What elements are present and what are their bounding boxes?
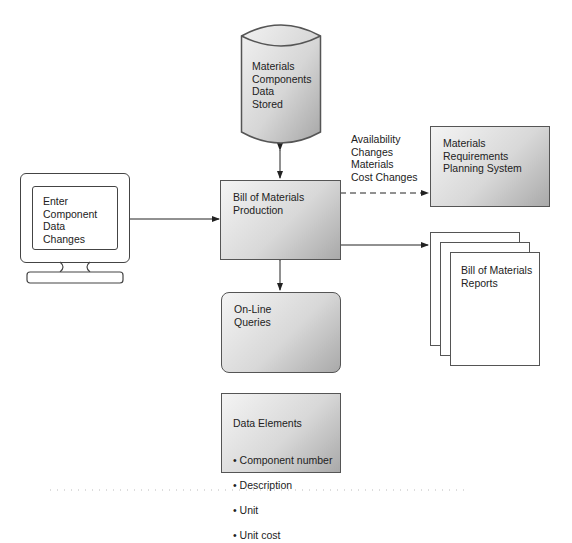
data-element-item: Description <box>233 479 332 492</box>
database-cylinder: Materials Components Data Stored <box>240 20 322 148</box>
data-element-item: Component number <box>233 454 332 467</box>
reports-document-stack: Bill of Materials Reports <box>430 232 540 347</box>
mrp-system-label: Materials Requirements Planning System <box>443 137 522 175</box>
terminal-label: Enter Component Data Changes <box>43 195 97 245</box>
report-page-front: Bill of Materials Reports <box>450 252 540 366</box>
bom-production-label: Bill of Materials Production <box>233 191 304 216</box>
monitor-stand-icon <box>20 261 130 285</box>
data-elements-box: Data Elements Component number Descripti… <box>221 393 341 473</box>
online-queries-box: On-Line Queries <box>221 292 341 373</box>
reports-label: Bill of Materials Reports <box>461 264 532 289</box>
data-element-item: Unit cost <box>233 529 332 542</box>
terminal-monitor: Enter Component Data Changes <box>20 173 130 285</box>
availability-changes-label: Availability Changes Materials Cost Chan… <box>351 133 418 183</box>
data-elements-title: Data Elements <box>233 417 332 430</box>
data-elements-list: Component number Description Unit Unit c… <box>233 442 332 543</box>
mrp-system-box: Materials Requirements Planning System <box>430 126 550 207</box>
bom-production-box: Bill of Materials Production <box>220 180 341 260</box>
online-queries-label: On-Line Queries <box>234 303 271 328</box>
data-elements-content: Data Elements Component number Descripti… <box>233 404 332 543</box>
database-label: Materials Components Data Stored <box>252 60 312 110</box>
data-element-item: Unit <box>233 504 332 517</box>
